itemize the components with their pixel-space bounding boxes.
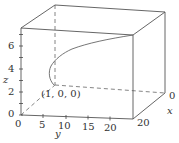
y-tick-label-0: 0 — [15, 118, 21, 129]
y-axis-label: y — [54, 128, 61, 139]
z-tick-label-4: 4 — [8, 63, 14, 74]
z-tick-label-0: 0 — [8, 108, 14, 119]
box-top-face — [21, 5, 165, 35]
x-tick-label-0: 0 — [169, 90, 175, 101]
x-tick-label-20: 20 — [137, 117, 150, 128]
y-tick-label-5: 5 — [39, 119, 45, 130]
z-axis-label: z — [2, 74, 9, 85]
y-tick-label-20: 20 — [104, 122, 117, 133]
x-axis-label: x — [167, 105, 173, 116]
3d-curve-plot: 6 4 2 0 z 0 5 10 15 20 y 0 20 x (1, 0, 0… — [0, 0, 179, 143]
z-tick-label-6: 6 — [8, 40, 14, 51]
y-tick-label-15: 15 — [82, 121, 95, 132]
space-curve — [49, 35, 133, 85]
x-axis-line — [133, 93, 165, 119]
z-tick-label-2: 2 — [8, 86, 14, 97]
point-annotation: (1, 0, 0) — [41, 88, 81, 99]
y-axis-line — [21, 115, 133, 119]
